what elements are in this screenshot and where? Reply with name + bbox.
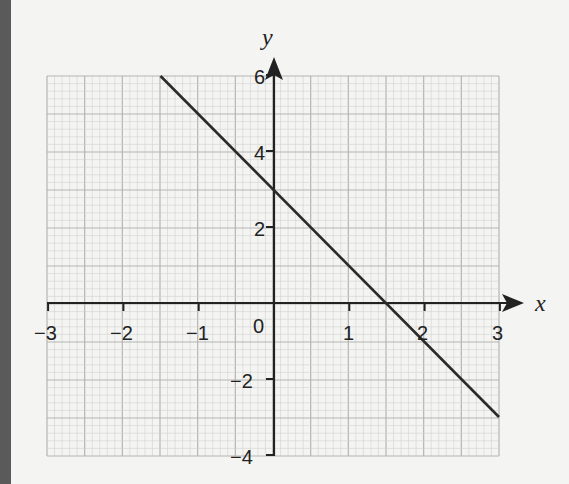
x-tick-label: 2 xyxy=(417,322,428,344)
y-tick-label: −2 xyxy=(230,370,253,392)
graph: x y 0 −3 −2 −1 1 2 3 6 4 2 −2 −4 xyxy=(0,0,569,484)
x-tick-label: −3 xyxy=(34,322,57,344)
x-tick-label: 3 xyxy=(492,322,503,344)
plotted-line xyxy=(161,76,500,417)
y-tick-label: −4 xyxy=(230,446,253,468)
x-tick-label: 1 xyxy=(343,322,354,344)
origin-label: 0 xyxy=(253,315,264,337)
x-tick-label: −1 xyxy=(186,322,209,344)
y-axis-label: y xyxy=(260,24,273,50)
y-tick-label: 2 xyxy=(254,218,265,240)
y-tick-label: 6 xyxy=(254,66,265,88)
x-tick-label: −2 xyxy=(110,322,133,344)
y-tick-label: 4 xyxy=(254,142,265,164)
x-axis-label: x xyxy=(534,290,546,316)
